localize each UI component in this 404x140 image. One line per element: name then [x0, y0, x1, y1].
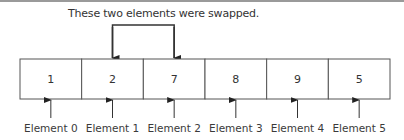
array-cell: 5 — [328, 59, 390, 99]
element-pointer: Element 4 — [271, 100, 325, 134]
element-pointer: Element 1 — [86, 100, 140, 134]
element-label: Element 3 — [209, 122, 263, 134]
element-label: Element 0 — [24, 122, 78, 134]
array-cell: 1 — [20, 59, 82, 99]
array-cell: 9 — [267, 59, 329, 99]
element-label: Element 1 — [86, 122, 140, 134]
cell-value: 7 — [171, 73, 178, 86]
element-pointer: Element 0 — [24, 100, 78, 134]
array-cell: 2 — [82, 59, 144, 99]
array-cell: 7 — [143, 59, 205, 99]
swap-bracket — [113, 25, 175, 58]
element-label: Element 5 — [332, 122, 386, 134]
swap-connector — [113, 25, 175, 58]
array-diagram: 127895 Element 0Element 1Element 2Elemen… — [0, 0, 404, 140]
cell-value: 9 — [294, 73, 301, 86]
cell-value: 2 — [109, 73, 116, 86]
element-label: Element 2 — [147, 122, 201, 134]
cell-value: 1 — [47, 73, 54, 86]
element-pointer: Element 3 — [209, 100, 263, 134]
array-cell: 8 — [205, 59, 267, 99]
cell-value: 8 — [232, 73, 239, 86]
element-label: Element 4 — [271, 122, 325, 134]
element-pointer: Element 5 — [332, 100, 386, 134]
cell-value: 5 — [356, 73, 363, 86]
element-pointers: Element 0Element 1Element 2Element 3Elem… — [24, 100, 386, 134]
array-cells: 127895 — [20, 59, 390, 99]
element-pointer: Element 2 — [147, 100, 201, 134]
